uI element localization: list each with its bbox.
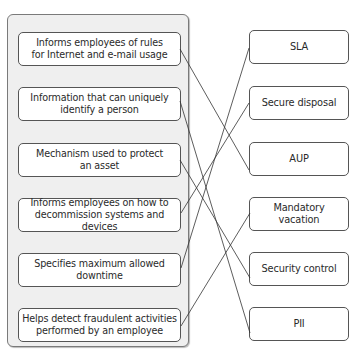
term-box-aup: AUP xyxy=(249,142,349,176)
connector-pii xyxy=(180,101,250,333)
connector-security-control xyxy=(180,160,250,278)
term-label: PII xyxy=(293,318,304,330)
description-box-max-downtime: Specifies maximum alloweddowntime xyxy=(18,253,181,287)
term-box-sla: SLA xyxy=(249,30,349,64)
description-text: Information that can uniquelyidentify a … xyxy=(30,92,168,116)
term-label: SLA xyxy=(290,41,308,53)
term-box-security-control: Security control xyxy=(249,252,349,286)
description-text: Helps detect fraudulent activitiesperfor… xyxy=(22,313,177,337)
term-box-pii: PII xyxy=(249,307,349,341)
description-text: Mechanism used to protectan asset xyxy=(36,148,163,172)
term-box-secure-disposal: Secure disposal xyxy=(249,86,349,120)
connector-mandatory-vacation xyxy=(181,213,250,326)
term-label: Mandatory vacation xyxy=(252,202,346,226)
description-text: Specifies maximum alloweddowntime xyxy=(34,258,165,282)
connector-aup xyxy=(180,49,249,170)
description-box-decommission: Informs employees on how todecommission … xyxy=(18,198,181,232)
term-label: AUP xyxy=(289,153,308,165)
description-text: Informs employees on how todecommission … xyxy=(21,197,178,233)
term-label: Security control xyxy=(262,263,337,275)
description-box-fraud-detection: Helps detect fraudulent activitiesperfor… xyxy=(18,308,181,342)
connector-sla xyxy=(181,48,249,268)
connector-secure-disposal xyxy=(181,103,249,213)
description-text: Informs employees of rulesfor Internet a… xyxy=(31,37,167,61)
description-box-protect-asset: Mechanism used to protectan asset xyxy=(18,143,181,177)
description-box-acceptable-use: Informs employees of rulesfor Internet a… xyxy=(18,32,181,66)
description-box-personal-info: Information that can uniquelyidentify a … xyxy=(18,87,181,121)
term-box-mandatory-vacation: Mandatory vacation xyxy=(249,197,349,231)
term-label: Secure disposal xyxy=(262,97,337,109)
